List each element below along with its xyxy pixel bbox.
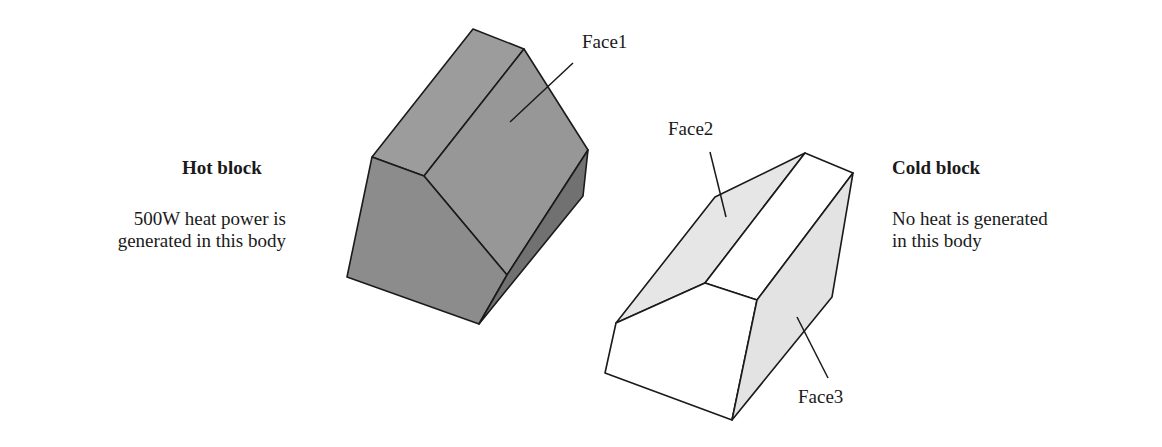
- face2-label: Face2: [668, 118, 713, 140]
- hot-block-title: Hot block: [182, 157, 262, 179]
- diagram-canvas: Face1 Face2 Face3 Hot block 500W heat po…: [0, 0, 1162, 447]
- cold-block-desc-line1: No heat is generated: [892, 208, 1048, 230]
- face3-label: Face3: [798, 386, 843, 408]
- cold-block-desc-line2: in this body: [892, 230, 982, 252]
- face1-label: Face1: [582, 31, 627, 53]
- face3-leader: [797, 317, 828, 378]
- hot-block-desc-line1: 500W heat power is: [70, 208, 286, 230]
- cold-block-title: Cold block: [892, 157, 980, 179]
- hot-block-desc-line2: generated in this body: [70, 230, 286, 252]
- cold-block-front-face: [605, 283, 757, 420]
